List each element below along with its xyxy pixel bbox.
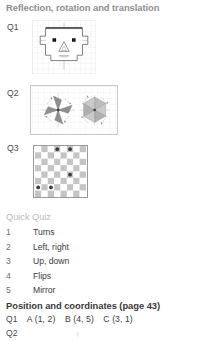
checkerboard-cell: [80, 165, 86, 171]
checkerboard-cell: [48, 152, 54, 158]
quiz-item-number: 2: [6, 242, 11, 252]
answer-label-q2: Q2: [6, 328, 17, 338]
checkerboard-cell: [67, 165, 73, 171]
checkerboard-cell: [35, 146, 41, 152]
checkerboard-cell: [41, 165, 47, 171]
list-item: 5 Mirror: [6, 285, 196, 300]
checkerboard-cell: [73, 172, 79, 178]
checkerboard-cell: [73, 152, 79, 158]
quiz-item-number: 1: [6, 227, 11, 237]
checkerboard-counter: [49, 186, 53, 190]
checkerboard-cell: [80, 184, 86, 190]
quiz-item-text: Flips: [33, 271, 51, 281]
quiz-item-number: 5: [6, 285, 11, 295]
checkerboard-cell: [67, 184, 73, 190]
checkerboard-cell: [41, 146, 47, 152]
checkerboard-figure: [33, 145, 88, 198]
checkerboard-cell: [41, 152, 47, 158]
checkerboard-cell: [73, 184, 79, 190]
checkerboard-cell: [41, 191, 47, 197]
checkerboard-cell: [80, 191, 86, 197]
checkerboard-cell: [41, 178, 47, 184]
page-title-position: Position and coordinates (page 43): [6, 300, 160, 311]
checkerboard-cell: [61, 178, 67, 184]
face-grid-figure: [32, 20, 96, 74]
checkerboard-cell: [73, 159, 79, 165]
checkerboard-cell: [48, 191, 54, 197]
checkerboard-cell: [41, 159, 47, 165]
checkerboard-cell: [54, 178, 60, 184]
checkerboard-cell: [35, 152, 41, 158]
list-item: 3 Up, down: [6, 256, 196, 271]
checkerboard-cell: [73, 146, 79, 152]
checkerboard-cell: [48, 146, 54, 152]
checkerboard-cell: [67, 191, 73, 197]
quiz-item-text: Up, down: [33, 256, 69, 266]
list-item: 2 Left, right: [6, 242, 196, 257]
answer-value: B (4, 5): [65, 314, 94, 324]
checkerboard-cell: [48, 178, 54, 184]
checkerboard-cell: [73, 178, 79, 184]
checkerboard-cell: [61, 172, 67, 178]
answer-value: A (1, 2): [27, 314, 56, 324]
checkerboard-cell: [48, 172, 54, 178]
quick-quiz-list: 1 Turns 2 Left, right 3 Up, down 4 Flips…: [6, 227, 196, 300]
quiz-item-text: Left, right: [33, 242, 69, 252]
checkerboard-counter: [36, 186, 40, 190]
quiz-item-number: 3: [6, 256, 11, 266]
checkerboard-counter: [68, 147, 72, 151]
checkerboard-cell: [61, 184, 67, 190]
checkerboard-cell: [54, 172, 60, 178]
quiz-item-text: Turns: [33, 227, 55, 237]
checkerboard-cell: [54, 159, 60, 165]
checkerboard-cell: [73, 191, 79, 197]
checkerboard-cell: [67, 159, 73, 165]
list-item: 4 Flips: [6, 271, 196, 286]
checkerboard-cell: [54, 152, 60, 158]
question-label-q2: Q2: [7, 88, 18, 98]
checkerboard-cell: [80, 146, 86, 152]
checkerboard-cell: [48, 159, 54, 165]
answer-q2-partial-mark: ⌇: [76, 331, 79, 339]
worksheet-page: Reflection, rotation and translation Q1: [0, 0, 199, 341]
checkerboard-counter: [68, 173, 72, 177]
checkerboard-cell: [35, 159, 41, 165]
question-label-q1: Q1: [7, 22, 18, 32]
checkerboard-cell: [80, 159, 86, 165]
checkerboard-cell: [48, 165, 54, 171]
checkerboard-cell: [61, 146, 67, 152]
checkerboard-cell: [54, 184, 60, 190]
quiz-item-number: 4: [6, 271, 11, 281]
checkerboard-cell: [35, 165, 41, 171]
checkerboard-cell: [54, 191, 60, 197]
checkerboard-cell: [80, 152, 86, 158]
checkerboard-cell: [80, 172, 86, 178]
checkerboard-cell: [35, 191, 41, 197]
checkerboard-cell: [67, 178, 73, 184]
checkerboard-cell: [41, 172, 47, 178]
checkerboard-cell: [54, 165, 60, 171]
answer-row-q1: Q1 A (1, 2) B (4, 5) C (3, 1): [6, 314, 140, 324]
checkerboard-cell: [61, 165, 67, 171]
list-item: 1 Turns: [6, 227, 196, 242]
checkerboard-cell: [80, 178, 86, 184]
pinwheel-rotation-figure: [30, 85, 118, 135]
page-title-reflection: Reflection, rotation and translation: [6, 2, 159, 13]
checkerboard-counter: [55, 147, 59, 151]
quiz-item-text: Mirror: [33, 285, 55, 295]
question-label-q3: Q3: [7, 143, 18, 153]
checkerboard-cell: [67, 152, 73, 158]
checkerboard-cell: [61, 159, 67, 165]
checkerboard-cell: [73, 165, 79, 171]
checkerboard-cell: [41, 184, 47, 190]
checkerboard-cell: [61, 152, 67, 158]
checkerboard-cell: [61, 191, 67, 197]
checkerboard-cell: [35, 178, 41, 184]
answer-row-q2: Q2: [6, 328, 17, 338]
quick-quiz-heading: Quick Quiz: [6, 212, 51, 222]
checkerboard-cell: [35, 172, 41, 178]
answer-value: C (3, 1): [103, 314, 132, 324]
answer-label-q1: Q1: [6, 314, 17, 324]
